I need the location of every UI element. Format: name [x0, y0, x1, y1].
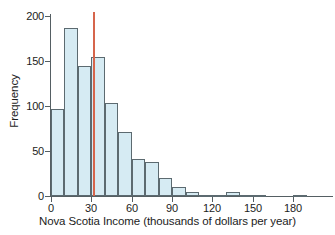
histogram-bar — [51, 109, 64, 196]
histogram-bar — [199, 195, 212, 197]
x-tick-label-3: 90 — [166, 203, 178, 214]
y-tick-label-0: 0 — [38, 191, 44, 202]
histogram-bar — [132, 159, 145, 196]
y-tick-label-3: 150 — [26, 56, 44, 67]
x-axis-title: Nova Scotia Income (thousands of dollars… — [0, 215, 335, 228]
x-tick-label-5: 150 — [244, 203, 262, 214]
histogram-bar — [172, 187, 185, 196]
histogram-bar — [105, 103, 118, 196]
y-tick-label-2: 100 — [26, 101, 44, 112]
histogram-bar — [145, 162, 158, 196]
x-tick-label-0: 0 — [48, 203, 54, 214]
x-tick-label-1: 30 — [85, 203, 97, 214]
y-tick-0 — [45, 196, 50, 197]
histogram-bar — [213, 195, 226, 197]
x-tick-label-6: 180 — [284, 203, 302, 214]
x-axis-line — [45, 196, 333, 197]
histogram-bar — [253, 195, 266, 197]
x-tick-label-2: 60 — [126, 203, 138, 214]
y-tick-1 — [45, 151, 50, 152]
y-axis-title: Frequency — [8, 41, 20, 161]
histogram-bar — [186, 192, 199, 196]
histogram-bar — [118, 132, 131, 196]
y-tick-4 — [45, 16, 50, 17]
histogram-bar — [240, 195, 253, 197]
histogram-bar — [78, 66, 91, 197]
histogram-bar — [226, 192, 239, 196]
y-tick-3 — [45, 61, 50, 62]
x-tick-label-4: 120 — [203, 203, 221, 214]
histogram-bar — [293, 195, 306, 197]
histogram-figure: 0 50 100 150 200 0 30 60 90 120 150 180 … — [0, 0, 335, 235]
histogram-bar — [64, 28, 77, 196]
median-reference-line — [93, 12, 95, 196]
y-tick-label-4: 200 — [26, 11, 44, 22]
y-tick-label-1: 50 — [32, 146, 44, 157]
y-tick-2 — [45, 106, 50, 107]
histogram-bar — [159, 178, 172, 196]
plot-area: 0 50 100 150 200 0 30 60 90 120 150 180 … — [0, 0, 335, 235]
